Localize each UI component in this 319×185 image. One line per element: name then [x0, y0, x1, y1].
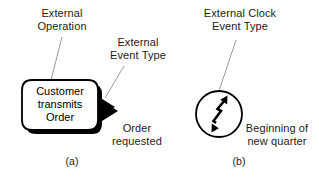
leader-line-external-operation — [50, 37, 62, 84]
label-external-event-type: External Event Type — [96, 36, 180, 61]
label-beginning-of-new-quarter: Beginning of new quarter — [236, 122, 318, 147]
figure-canvas: External Operation External Event Type C… — [0, 0, 319, 185]
operation-box-text: Customer transmits Order — [22, 85, 98, 124]
caption-panel-b: (b) — [219, 155, 259, 167]
leader-line-external-event-type — [105, 66, 124, 98]
label-external-operation: External Operation — [22, 7, 102, 32]
caption-panel-a: (a) — [52, 155, 92, 167]
label-order-requested: Order requested — [98, 122, 176, 147]
label-external-clock-event-type: External Clock Event Type — [190, 7, 290, 32]
leader-line-external-clock-event-type — [218, 40, 236, 94]
